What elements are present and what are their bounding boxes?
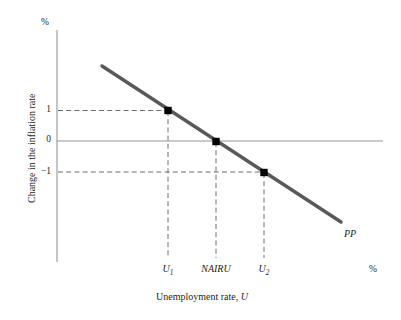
phillips-curve-figure: % 1 0 −1 Change in the inflation rate U1… [0, 0, 401, 320]
x-label-u1: U1 [148, 264, 188, 277]
x-label-u2-base: U [259, 263, 266, 274]
x-label-u1-subscript: 1 [170, 269, 174, 277]
data-point-nairu [212, 138, 219, 145]
x-label-nairu: NAIRU [186, 264, 246, 274]
x-label-u1-base: U [163, 263, 170, 274]
y-axis-title: Change in the inflation rate [26, 94, 37, 203]
x-label-u2: U2 [244, 264, 284, 277]
x-axis-title-prefix: Unemployment rate, [156, 291, 241, 302]
data-point-u2 [260, 169, 267, 176]
y-axis-unit-label: % [41, 18, 49, 28]
pp-curve-label: PP [344, 229, 356, 239]
x-label-u2-subscript: 2 [266, 269, 270, 277]
x-axis-unit-label: % [369, 265, 377, 275]
x-axis-title: Unemployment rate, U [127, 292, 277, 302]
x-axis-title-symbol: U [241, 291, 248, 302]
pp-curve-line [102, 66, 341, 222]
data-point-u1 [164, 107, 171, 114]
